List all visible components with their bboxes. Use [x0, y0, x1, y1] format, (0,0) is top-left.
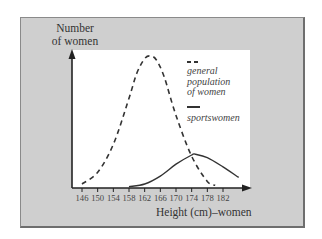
- legend-solid-line-icon: [187, 106, 200, 108]
- x-tick-label: 174: [185, 193, 199, 203]
- legend-label-general-3: of women: [187, 87, 240, 98]
- x-tick-label: 170: [170, 193, 183, 203]
- legend-label-general-1: general: [187, 66, 240, 77]
- chart-svg: 146150154158162166170174178182: [0, 0, 322, 239]
- legend: general population of women sportswomen: [187, 58, 240, 123]
- x-axis-label: Height (cm)–women: [156, 206, 252, 218]
- legend-label-sportswomen: sportswomen: [187, 113, 240, 124]
- y-axis-arrow-icon: [69, 49, 76, 59]
- x-tick-label: 182: [217, 193, 230, 203]
- x-tick-label: 150: [91, 193, 104, 203]
- x-tick-label: 166: [154, 193, 168, 203]
- x-tick-label: 178: [201, 193, 214, 203]
- x-axis-arrow-icon: [242, 185, 252, 192]
- x-tick-label: 158: [123, 193, 136, 203]
- legend-dashed-line-icon: [187, 58, 201, 66]
- x-tick-label: 154: [107, 193, 121, 203]
- x-tick-label: 162: [138, 193, 151, 203]
- sportswomen-curve: [129, 154, 239, 187]
- x-tick-labels: 146150154158162166170174178182: [76, 193, 230, 203]
- x-tick-label: 146: [76, 193, 90, 203]
